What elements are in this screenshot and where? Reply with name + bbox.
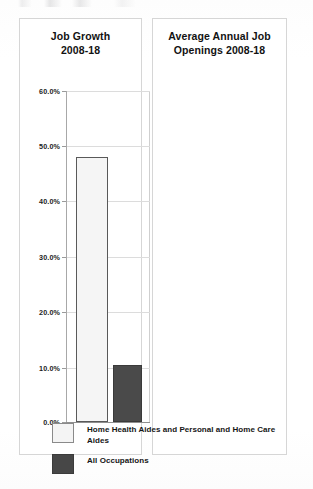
- chart-title-job-growth-line1: Job Growth: [51, 30, 110, 42]
- legend-label-all-occupations: All Occupations: [87, 454, 149, 466]
- bar-home-health-aides-job-growth: [76, 157, 108, 422]
- ytick-label-50: 50.0%: [39, 142, 60, 151]
- chart-title-job-growth-line2: 2008-18: [24, 43, 137, 57]
- ytick-label-20: 20.0%: [39, 308, 60, 317]
- legend-item-home-health-aides: Home Health Aides and Personal and Home …: [52, 423, 302, 446]
- legend-swatch-light-icon: [52, 423, 74, 443]
- gridline-60: [66, 91, 150, 92]
- ytick-label-40: 40.0%: [39, 197, 60, 206]
- plot-area-job-growth: 60.0% 50.0% 40.0% 30.0% 20.0% 10.0% 0.0%: [66, 91, 150, 423]
- chart-title-job-growth: Job Growth 2008-18: [24, 29, 137, 57]
- ytick-label-60: 60.0%: [39, 87, 60, 96]
- bar-all-occupations-job-growth: [113, 365, 142, 422]
- chart-legend: Home Health Aides and Personal and Home …: [52, 423, 302, 482]
- ytick-label-30: 30.0%: [39, 253, 60, 262]
- y-axis-line: [66, 91, 67, 423]
- chart-title-annual-openings-line1: Average Annual Job: [168, 30, 271, 42]
- chart-panel-job-growth: Job Growth 2008-18 60.0% 50.0% 40.0% 30.…: [19, 18, 142, 455]
- chart-title-annual-openings: Average Annual Job Openings 2008-18: [157, 29, 282, 57]
- legend-swatch-dark-icon: [52, 454, 74, 474]
- cut-off-text-artifact: [18, 0, 168, 7]
- chart-title-annual-openings-line2: Openings 2008-18: [157, 43, 282, 57]
- gridline-50: [66, 146, 150, 147]
- legend-item-all-occupations: All Occupations: [52, 454, 302, 474]
- chart-panel-annual-openings: Average Annual Job Openings 2008-18 120,…: [152, 18, 287, 455]
- ytick-label-10: 10.0%: [39, 364, 60, 373]
- legend-label-home-health-aides: Home Health Aides and Personal and Home …: [87, 423, 292, 446]
